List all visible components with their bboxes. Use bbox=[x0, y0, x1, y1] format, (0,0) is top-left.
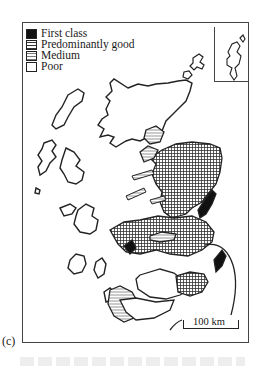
predominantly-good-swatch-icon bbox=[26, 40, 37, 50]
figure-caption-label: (c) bbox=[2, 334, 15, 349]
legend-item-poor: Poor bbox=[26, 61, 135, 72]
first-class-swatch-icon bbox=[26, 29, 37, 39]
legend-label: Poor bbox=[41, 61, 63, 72]
poor-swatch-icon bbox=[26, 62, 37, 72]
medium-swatch-icon bbox=[26, 51, 37, 61]
east-lowlands bbox=[108, 126, 236, 330]
map-legend: First class Predominantly good Medium Po… bbox=[26, 28, 135, 72]
orkney-islands bbox=[183, 54, 204, 79]
shetland-inset-frame bbox=[214, 27, 249, 82]
scale-bar-label: 100 km bbox=[192, 316, 226, 327]
cropped-body-text bbox=[20, 357, 245, 366]
